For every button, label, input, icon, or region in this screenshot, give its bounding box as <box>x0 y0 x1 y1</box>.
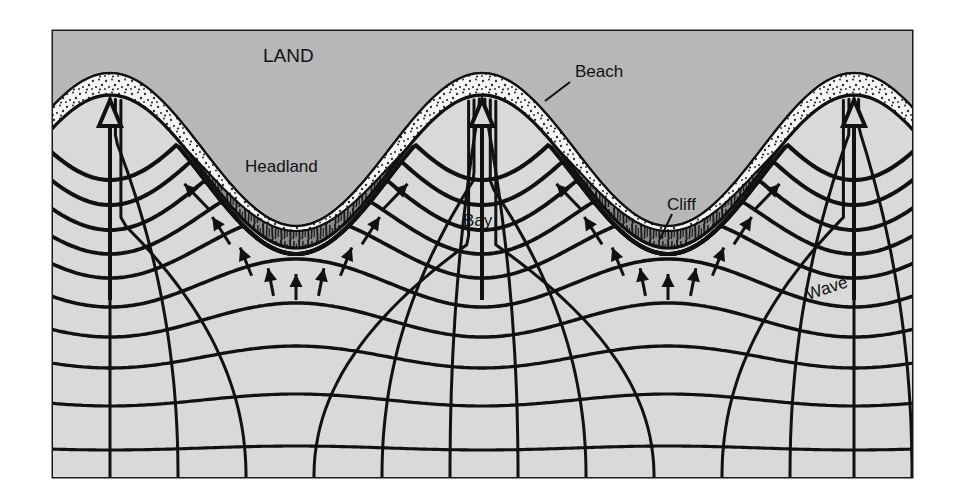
beach-label: Beach <box>575 62 623 81</box>
wave-refraction-diagram: LANDHeadlandBayBeachCliffWave <box>0 0 959 501</box>
diagram-canvas: LANDHeadlandBayBeachCliffWave <box>0 0 959 501</box>
headland-label: Headland <box>245 157 318 176</box>
bay-label: Bay <box>463 211 493 230</box>
cliff-label: Cliff <box>667 195 696 214</box>
land-label: LAND <box>263 45 314 66</box>
